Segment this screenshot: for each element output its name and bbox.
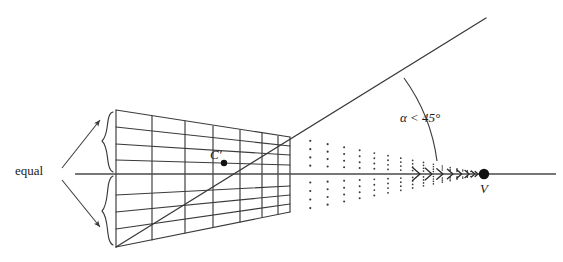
grid-dot — [387, 187, 389, 189]
grid-dot — [387, 192, 389, 194]
grid-dot — [373, 189, 375, 191]
grid-dot — [327, 165, 329, 167]
grid-dot — [433, 183, 435, 185]
grid-dot — [441, 177, 443, 179]
grid-dot — [309, 165, 311, 167]
grid-dot — [433, 176, 435, 178]
grid-dot — [343, 180, 345, 182]
grid-dot — [359, 161, 361, 163]
grid-dot — [327, 204, 329, 206]
grid-dot — [343, 153, 345, 155]
grid-dot — [441, 167, 443, 169]
grid-dot — [309, 207, 311, 209]
grid-dot — [400, 169, 402, 171]
grid-dot — [449, 180, 451, 182]
grid-dot — [359, 167, 361, 169]
grid-dot — [400, 157, 402, 159]
grid-dot — [400, 165, 402, 167]
grid-dot — [423, 167, 425, 169]
grid-dot — [309, 156, 311, 158]
grid-dot — [327, 181, 329, 183]
grid-dot — [343, 187, 345, 189]
grid-dot — [343, 160, 345, 162]
grid-dot — [433, 168, 435, 170]
grid-dot — [327, 196, 329, 198]
grid-dot — [400, 161, 402, 163]
grid-dot — [441, 165, 443, 167]
perspective-grid — [116, 110, 290, 247]
grid-dot — [373, 195, 375, 197]
equal-leader-arrow-upper — [62, 120, 100, 168]
grid-dot — [359, 179, 361, 181]
grid-horizontal-line — [116, 127, 290, 146]
upper-brace — [102, 112, 113, 172]
grid-dot — [449, 167, 451, 169]
perspective-grid-figure: equal C′ α < 45° V — [0, 0, 563, 262]
grid-dot — [423, 170, 425, 172]
grid-dot — [449, 168, 451, 170]
grid-dot — [373, 178, 375, 180]
grid-dot — [359, 191, 361, 193]
grid-dot — [343, 194, 345, 196]
grid-dot — [387, 182, 389, 184]
grid-horizontal-line — [116, 160, 290, 165]
grid-dot — [462, 177, 464, 179]
grid-dot — [433, 178, 435, 180]
grid-dot — [387, 159, 389, 161]
grid-dot — [462, 170, 464, 172]
grid-dot — [387, 164, 389, 166]
grid-dot — [387, 155, 389, 157]
grid-dot — [343, 200, 345, 202]
grid-horizontal-line — [116, 204, 290, 229]
grid-dot — [327, 151, 329, 153]
equal-label: equal — [15, 163, 43, 179]
grid-dot — [412, 163, 414, 165]
grid-horizontal-line — [116, 110, 290, 137]
grid-dot — [423, 162, 425, 164]
grid-dot — [309, 198, 311, 200]
grid-dot — [359, 185, 361, 187]
grid-dot — [423, 182, 425, 184]
grid-dot — [359, 149, 361, 151]
grid-dot — [373, 152, 375, 154]
grid-dot — [387, 178, 389, 180]
grid-dot — [343, 166, 345, 168]
grid-dot — [412, 187, 414, 189]
grid-dot — [412, 184, 414, 186]
grid-dot — [400, 177, 402, 179]
grid-dot — [343, 146, 345, 148]
grid-dot — [433, 181, 435, 183]
grid-dot — [433, 171, 435, 173]
lower-brace — [102, 176, 113, 245]
grid-dot — [423, 185, 425, 187]
grid-horizontal-line — [116, 144, 290, 155]
grid-dot — [373, 157, 375, 159]
grid-dot — [387, 169, 389, 171]
center-point-label: C′ — [210, 147, 222, 163]
grid-dot — [309, 190, 311, 192]
angle-label: α < 45° — [400, 110, 440, 126]
grid-dot — [412, 160, 414, 162]
grid-dot — [441, 169, 443, 171]
grid-dot — [449, 178, 451, 180]
grid-dot — [433, 164, 435, 166]
grid-dot — [441, 179, 443, 181]
grid-dot — [400, 181, 402, 183]
grid-dot — [309, 140, 311, 142]
grid-dot — [412, 170, 414, 172]
grid-dot — [359, 155, 361, 157]
grid-dot — [400, 189, 402, 191]
grid-dot — [373, 184, 375, 186]
grid-dot — [309, 181, 311, 183]
grid-horizontal-line — [116, 212, 290, 247]
grid-dot — [423, 165, 425, 167]
grid-dot — [400, 185, 402, 187]
grid-dot — [373, 168, 375, 170]
equal-leader-arrow-lower — [62, 180, 100, 227]
grid-dot — [327, 143, 329, 145]
grid-dot — [359, 197, 361, 199]
grid-dot — [373, 163, 375, 165]
grid-horizontal-line — [116, 195, 290, 212]
vanishing-point-label: V — [480, 181, 488, 197]
grid-dot — [423, 176, 425, 178]
